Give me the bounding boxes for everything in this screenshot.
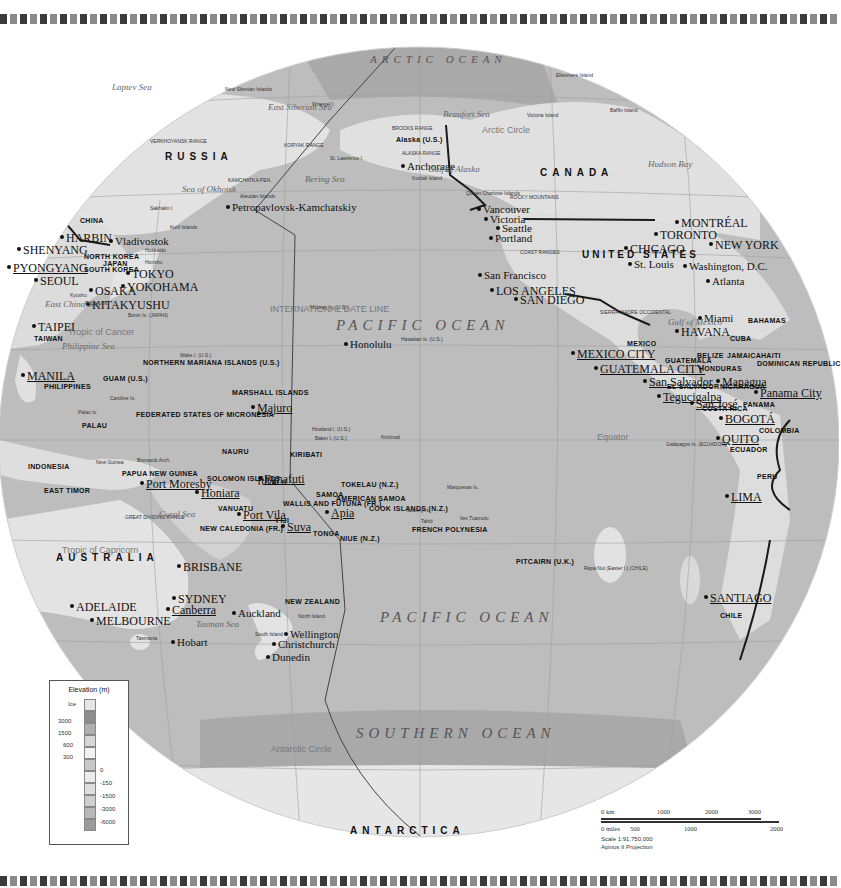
- country-label: NAURU: [222, 448, 249, 455]
- region-label-canada: CANADA: [540, 168, 613, 178]
- country-label: HAITI: [761, 352, 781, 359]
- legend-swatch-600: [84, 735, 96, 747]
- country-label: JAMAICA: [727, 352, 761, 359]
- city-label: Majuro: [257, 402, 292, 414]
- country-label: FRENCH POLYNESIA: [412, 526, 488, 533]
- legend-swatch-ice: [84, 699, 96, 711]
- scale-mile-1000: 1000: [684, 825, 697, 832]
- city-label: BRISBANE: [183, 561, 242, 573]
- island-label: New Guinea: [96, 460, 124, 465]
- legend-label: -150: [100, 780, 112, 786]
- country-label: COLOMBIA: [759, 427, 800, 434]
- country-label: PAPUA NEW GUINEA: [122, 470, 198, 477]
- legend-label: 3000: [58, 718, 71, 724]
- country-label: TAIWAN: [34, 335, 63, 342]
- city-marker-icon: [266, 655, 270, 659]
- projection-name: Apinus II Projection: [601, 844, 653, 850]
- line-label: Antarctic Circle: [271, 745, 332, 754]
- ocean-label-arctic: ARCTIC OCEAN: [370, 54, 507, 65]
- city-label: CHICAGO: [630, 243, 685, 255]
- city-label: SEOUL: [40, 275, 79, 287]
- island-label: Galápagos Is. (ECUADOR): [666, 442, 727, 447]
- city-marker-icon: [624, 246, 628, 250]
- city-label: Vladivostok: [115, 236, 169, 247]
- island-label: South Island: [255, 632, 283, 637]
- sea-label: Hudson Bay: [648, 160, 692, 169]
- city-marker-icon: [171, 640, 175, 644]
- legend-swatch-minus1500: [84, 783, 96, 795]
- city-label: San Salvador: [649, 376, 713, 388]
- city-marker-icon: [226, 205, 230, 209]
- country-label: NORTHERN MARIANA ISLANDS (U.S.): [143, 359, 280, 366]
- city-marker-icon: [489, 236, 493, 240]
- city-marker-icon: [675, 329, 679, 333]
- scale-bar: 0 km 1000 2000 3000 0 miles 500 1000 200…: [600, 808, 790, 863]
- city-label: LIMA: [731, 491, 762, 503]
- country-label: MEXICO: [627, 340, 656, 347]
- city-marker-icon: [496, 226, 500, 230]
- legend-swatch-300: [84, 747, 96, 759]
- city-marker-icon: [281, 524, 285, 528]
- country-label: PITCAIRN (U.K.): [516, 558, 574, 565]
- sea-label: Laptev Sea: [112, 83, 152, 92]
- country-label: PALAU: [82, 422, 107, 429]
- city-label: MEXICO CITY: [577, 348, 655, 360]
- feature-label: COAST RANGES: [520, 250, 560, 255]
- feature-label: KAMCHATKA PEN.: [228, 178, 272, 183]
- country-label: NORTH KOREA: [84, 253, 139, 260]
- city-marker-icon: [70, 604, 74, 608]
- scale-mile-0: 0 miles: [601, 825, 620, 832]
- legend-swatch-deep: [84, 819, 96, 831]
- island-label: Ellesmere Island: [556, 73, 593, 78]
- city-marker-icon: [109, 239, 113, 243]
- country-label: BAHAMAS: [748, 317, 786, 324]
- city-label: St. Louis: [634, 259, 674, 270]
- city-marker-icon: [716, 436, 720, 440]
- country-label: GUAM (U.S.): [103, 375, 148, 382]
- city-marker-icon: [258, 476, 262, 480]
- country-label: SOUTH KOREA: [84, 266, 139, 273]
- city-label: MELBOURNE: [96, 615, 171, 627]
- island-label: Wrangel I.: [312, 102, 335, 107]
- country-label: KIRIBATI: [290, 451, 322, 458]
- scale-km-0: 0 km: [601, 808, 614, 815]
- city-marker-icon: [643, 379, 647, 383]
- island-label: Hawaiian Is. (U.S.): [401, 337, 443, 342]
- city-marker-icon: [654, 232, 658, 236]
- city-marker-icon: [195, 490, 199, 494]
- country-label: JAPAN: [103, 260, 128, 267]
- city-label: Suva: [287, 521, 311, 533]
- city-marker-icon: [719, 416, 723, 420]
- country-label: PERU: [757, 473, 778, 480]
- city-marker-icon: [284, 632, 288, 636]
- island-label: Caroline Is.: [110, 396, 135, 401]
- island-label: Hokkaido: [145, 248, 166, 253]
- legend-label: -3000: [100, 806, 115, 812]
- scale-mile-2000: 2000: [770, 825, 783, 832]
- city-marker-icon: [251, 405, 255, 409]
- city-label: BOGOTÁ: [725, 413, 775, 425]
- legend-label: 0: [100, 767, 103, 773]
- city-label: San Francisco: [484, 270, 546, 281]
- legend-swatch-3000: [84, 711, 96, 723]
- legend-label: 300: [63, 754, 73, 760]
- city-marker-icon: [32, 324, 36, 328]
- city-label: San José: [696, 398, 738, 410]
- city-marker-icon: [177, 564, 181, 568]
- city-marker-icon: [90, 618, 94, 622]
- country-label: EAST TIMOR: [44, 487, 90, 494]
- legend-label: 1500: [58, 730, 71, 736]
- line-label: Tropic of Capricorn: [62, 546, 138, 555]
- legend-swatch-minus3000: [84, 795, 96, 807]
- city-marker-icon: [709, 242, 713, 246]
- city-marker-icon: [490, 288, 494, 292]
- city-marker-icon: [478, 273, 482, 277]
- country-label: FEDERATED STATES OF MICRONESIA: [136, 411, 274, 418]
- line-label: INTERNATIONAL DATE LINE: [270, 305, 389, 314]
- country-label: DOMINICAN REPUBLIC: [757, 360, 841, 367]
- island-label: Palau Is.: [78, 410, 97, 415]
- city-label: Hobart: [177, 637, 208, 648]
- city-label: ADELAIDE: [76, 601, 137, 613]
- city-label: Funafuti: [264, 473, 305, 485]
- scale-km-1000: 1000: [657, 808, 670, 815]
